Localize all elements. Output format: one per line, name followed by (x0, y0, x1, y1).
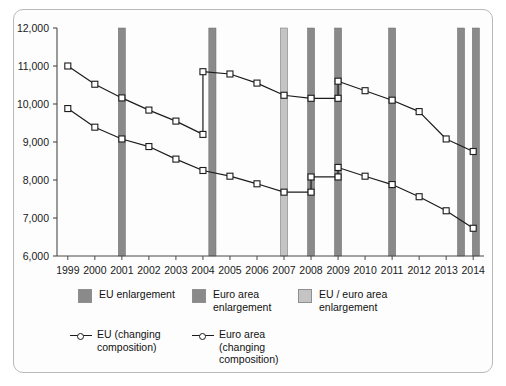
x-tick-label: 2002 (137, 264, 161, 276)
data-point-marker (308, 174, 314, 180)
data-point-marker (362, 88, 368, 94)
data-point-marker (254, 181, 260, 187)
data-point-marker (443, 208, 449, 214)
data-point-marker (146, 144, 152, 150)
band-rect (209, 28, 216, 256)
data-point-marker (470, 149, 476, 155)
legend-label: EU / euro area enlargement (319, 288, 387, 313)
x-tick-label: 2014 (462, 264, 486, 276)
data-point-marker (119, 136, 125, 142)
data-point-marker (362, 173, 368, 179)
x-tick-label: 2010 (353, 264, 377, 276)
band-rect (334, 28, 341, 256)
legend-marker (77, 333, 84, 340)
x-tick-label: 2001 (110, 264, 134, 276)
data-point-marker (173, 156, 179, 162)
data-point-marker (389, 182, 395, 188)
y-tick-label: 10,000 (17, 98, 49, 110)
legend-label: EU (changing composition) (97, 328, 161, 353)
x-tick-label: 2011 (381, 264, 404, 276)
data-point-marker (416, 109, 422, 115)
legend-swatch-icon (78, 289, 92, 303)
y-tick-label: 8,000 (23, 174, 49, 186)
legend-line-marker-icon (192, 329, 214, 343)
series-line-0 (68, 66, 473, 152)
data-point-marker (92, 124, 98, 130)
legend-label: Euro area enlargement (213, 288, 271, 313)
x-tick-label: 2012 (407, 264, 431, 276)
data-point-marker (281, 92, 287, 98)
data-point-marker (200, 168, 206, 174)
data-point-marker (470, 225, 476, 231)
data-point-marker (65, 106, 71, 112)
y-tick-label: 6,000 (23, 250, 49, 262)
data-point-marker (335, 78, 341, 84)
enlargement-band-euro_area_enlargement (334, 28, 341, 256)
legend-item-4: Euro area (changing composition) (192, 328, 312, 366)
legend-label: EU enlargement (99, 288, 175, 301)
data-point-marker (335, 164, 341, 170)
legend-label: Euro area (changing composition) (219, 328, 279, 366)
legend-marker (199, 333, 206, 340)
x-tick-label: 2008 (299, 264, 323, 276)
enlargement-band-eu_enlargement (209, 28, 216, 256)
legend-line-marker-icon (70, 329, 92, 343)
y-tick-label: 9,000 (23, 136, 49, 148)
legend-swatch-icon (192, 289, 206, 303)
series-line-1 (68, 109, 473, 229)
data-point-marker (443, 136, 449, 142)
data-point-marker (119, 95, 125, 101)
data-point-marker (416, 194, 422, 200)
data-point-marker (227, 71, 233, 77)
enlargement-band-eu_euro_area_enlargement (280, 28, 287, 256)
x-tick-label: 2006 (245, 264, 269, 276)
enlargement-band-euro_area_enlargement (307, 28, 314, 256)
x-tick-label: 2000 (83, 264, 107, 276)
x-tick-label: 2009 (326, 264, 350, 276)
data-point-marker (92, 81, 98, 87)
data-point-marker (146, 107, 152, 113)
legend-swatch-icon (298, 289, 312, 303)
data-point-marker (65, 63, 71, 69)
data-point-marker (173, 118, 179, 124)
data-point-marker (389, 97, 395, 103)
data-point-marker (281, 189, 287, 195)
band-rect (280, 28, 287, 256)
band-rect (389, 28, 396, 256)
data-point-marker (335, 174, 341, 180)
x-tick-label: 2013 (434, 264, 458, 276)
legend-item-1: Euro area enlargement (192, 288, 302, 313)
band-rect (307, 28, 314, 256)
data-point-marker (254, 80, 260, 86)
legend-item-0: EU enlargement (78, 288, 198, 303)
data-point-marker (200, 131, 206, 137)
data-point-marker (335, 95, 341, 101)
enlargement-band-euro_area_enlargement (472, 28, 479, 256)
x-tick-label: 2004 (191, 264, 215, 276)
y-tick-label: 7,000 (23, 212, 49, 224)
x-tick-label: 2005 (218, 264, 242, 276)
enlargement-band-euro_area_enlargement (389, 28, 396, 256)
data-point-marker (308, 95, 314, 101)
y-tick-label: 12,000 (17, 22, 49, 34)
data-point-marker (200, 69, 206, 75)
legend-item-3: EU (changing composition) (70, 328, 190, 353)
legend-item-2: EU / euro area enlargement (298, 288, 428, 313)
data-point-marker (227, 173, 233, 179)
x-tick-label: 2003 (164, 264, 188, 276)
x-tick-label: 1999 (56, 264, 80, 276)
band-rect (472, 28, 479, 256)
data-point-marker (308, 189, 314, 195)
x-tick-label: 2007 (272, 264, 296, 276)
y-tick-label: 11,000 (18, 60, 49, 72)
